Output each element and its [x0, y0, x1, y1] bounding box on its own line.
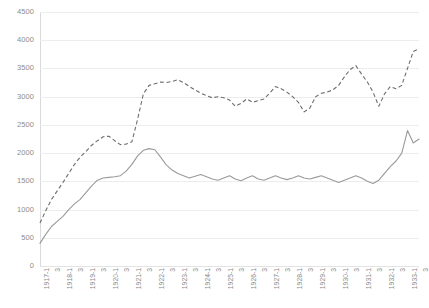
x-axis-labels: 1917-131918-131919-131920-131921-131922-… [40, 268, 419, 308]
x-axis-tick-label: 1925-1 [227, 268, 234, 289]
plot-area [40, 12, 419, 266]
x-axis-tick-label: 3 [284, 268, 291, 272]
x-axis-tick-label: 1933-1 [411, 268, 418, 289]
y-axis-tick-label: 4000 [0, 36, 34, 44]
x-axis-tick-label: 3 [192, 268, 199, 272]
x-axis-tick-label: 1923-1 [181, 268, 188, 289]
series-layer [40, 12, 419, 266]
y-axis-labels: 050010001500200025003000350040004500 [0, 0, 34, 308]
y-axis-tick-label: 1500 [0, 177, 34, 185]
x-axis-tick-label: 3 [77, 268, 84, 272]
x-axis-tick-label: 1926-1 [250, 268, 257, 289]
x-axis-tick-label: 1921-1 [135, 268, 142, 289]
x-axis-tick-label: 1930-1 [342, 268, 349, 289]
x-axis-tick-label: 3 [353, 268, 360, 272]
x-axis-tick-label: 1922-1 [158, 268, 165, 289]
x-axis-tick-label: 1924-1 [204, 268, 211, 289]
x-axis-tick-label: 3 [215, 268, 222, 272]
gridline-0 [40, 266, 419, 267]
x-axis-tick-label: 3 [146, 268, 153, 272]
x-axis-tick-label: 3 [100, 268, 107, 272]
x-axis-tick-label: 1927-1 [273, 268, 280, 289]
x-axis-tick-label: 1931-1 [365, 268, 372, 289]
x-axis-tick-label: 3 [123, 268, 130, 272]
y-axis-tick-label: 0 [0, 262, 34, 270]
x-axis-tick-label: 1918-1 [66, 268, 73, 289]
x-axis-tick-label: 3 [376, 268, 383, 272]
x-axis-tick-label: 1929-1 [319, 268, 326, 289]
x-axis-tick-label: 1920-1 [112, 268, 119, 289]
upper-dashed-series-line [40, 49, 419, 223]
x-axis-tick-label: 1919-1 [89, 268, 96, 289]
x-axis-tick-label: 3 [169, 268, 176, 272]
y-axis-tick-label: 2500 [0, 121, 34, 129]
y-axis-tick-label: 2000 [0, 149, 34, 157]
y-axis-tick-label: 3000 [0, 93, 34, 101]
lower-solid-series-line [40, 131, 419, 244]
x-axis-tick-label: 3 [54, 268, 61, 272]
x-axis-tick-label: 3 [330, 268, 337, 272]
x-axis-tick-label: 3 [238, 268, 245, 272]
y-axis-tick-label: 3500 [0, 64, 34, 72]
x-axis-tick-label: 1932-1 [388, 268, 395, 289]
x-axis-tick-label: 3 [307, 268, 314, 272]
y-axis-tick-label: 1000 [0, 206, 34, 214]
y-axis-tick-label: 4500 [0, 8, 34, 16]
x-axis-tick-label: 1928-1 [296, 268, 303, 289]
x-axis-tick-label: 3 [422, 268, 429, 272]
x-axis-tick-label: 1917-1 [43, 268, 50, 289]
x-axis-tick-label: 3 [399, 268, 406, 272]
x-axis-tick-label: 3 [261, 268, 268, 272]
y-axis-tick-label: 500 [0, 234, 34, 242]
